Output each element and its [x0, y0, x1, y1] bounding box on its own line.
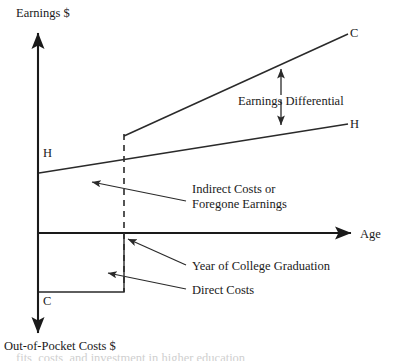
college-cost-label: C [43, 294, 51, 308]
direct-costs-label: Direct Costs [192, 283, 254, 297]
graduation-year-label: Year of College Graduation [192, 259, 331, 273]
highschool-curve-label-left: H [43, 146, 52, 160]
direct-costs-leader [108, 273, 186, 289]
highschool-earnings-curve [39, 124, 348, 173]
earnings-age-diagram: Earnings $ Age C H H C Earnings Differen… [0, 0, 394, 363]
y-axis-top-label: Earnings $ [16, 6, 70, 20]
x-axis-label: Age [360, 227, 381, 241]
diagram-canvas: Earnings $ Age C H H C Earnings Differen… [0, 0, 394, 363]
graduation-year-leader [128, 239, 186, 265]
college-earnings-curve [124, 34, 348, 136]
indirect-costs-leader [92, 182, 186, 201]
cut-off-caption: fits, costs, and investment in higher ed… [16, 352, 245, 361]
highschool-curve-label-right: H [350, 117, 359, 131]
indirect-costs-label-line1: Indirect Costs or [192, 182, 276, 196]
y-axis-bottom-label: Out-of-Pocket Costs $ [4, 339, 116, 353]
college-curve-label: C [350, 26, 358, 40]
indirect-costs-label-line2: Foregone Earnings [192, 197, 287, 211]
earnings-differential-label: Earnings Differential [238, 94, 344, 108]
direct-costs-box [39, 234, 124, 292]
